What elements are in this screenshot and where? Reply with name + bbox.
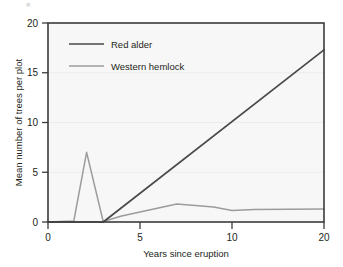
xaxis-ticks xyxy=(48,222,324,229)
crop-artifact-mark: ■ xyxy=(26,1,30,8)
figure-root: ■ 0 5 10 15 20 xyxy=(0,0,343,267)
ytick-label-15: 15 xyxy=(27,67,39,78)
legend-label-red-alder: Red alder xyxy=(111,39,152,50)
xtick-label-10: 10 xyxy=(226,232,238,243)
x-axis-title: Years since eruption xyxy=(143,248,229,259)
yaxis-ticks xyxy=(42,23,48,222)
line-chart: ■ 0 5 10 15 20 xyxy=(0,0,343,267)
xtick-label-20: 20 xyxy=(318,232,330,243)
ytick-label-20: 20 xyxy=(27,18,39,29)
y-axis-title: Mean number of trees per plot xyxy=(13,59,24,187)
ytick-label-0: 0 xyxy=(32,217,38,228)
xtick-label-5: 5 xyxy=(137,232,143,243)
ytick-label-10: 10 xyxy=(27,117,39,128)
legend-label-western-hemlock: Western hemlock xyxy=(111,61,184,72)
xtick-label-0: 0 xyxy=(45,232,51,243)
ytick-label-5: 5 xyxy=(32,167,38,178)
